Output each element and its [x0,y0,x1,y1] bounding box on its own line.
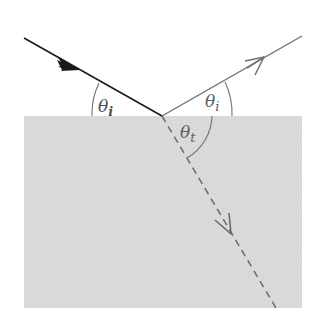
reflected-angle-label: θi [205,91,219,114]
medium-block [24,116,302,308]
reflected-angle-arc [225,82,232,116]
reflection-refraction-diagram: θi θi θt [0,0,330,336]
incident-angle-label: θi [98,96,113,119]
